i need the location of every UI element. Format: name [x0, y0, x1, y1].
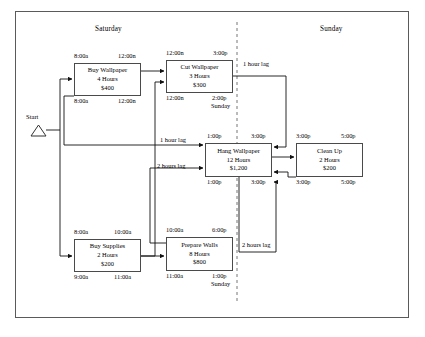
task-name: Prepare Walls — [181, 241, 218, 250]
task-name: Clean Up — [317, 147, 342, 156]
task-late-finish-day-cut-wallpaper: Sunday — [211, 103, 230, 110]
task-cost: $200 — [323, 164, 336, 173]
saturday-label: Saturday — [95, 26, 122, 34]
task-early-start-cut-wallpaper: 12:00n — [166, 50, 184, 57]
task-name: Cut Wallpaper — [181, 63, 219, 72]
task-early-start-prepare-walls: 10:00a — [166, 227, 183, 234]
task-late-finish-cut-wallpaper: 2:00p — [212, 95, 227, 102]
task-box-prepare-walls[interactable]: Prepare Walls 8 Hours $800 — [166, 237, 233, 271]
task-early-start-buy-wallpaper: 8:00a — [74, 53, 88, 60]
task-early-finish-cut-wallpaper: 3:00p — [213, 50, 228, 57]
task-late-start-buy-wallpaper: 8:00a — [74, 98, 88, 105]
task-duration: 2 Hours — [319, 156, 339, 165]
task-box-buy-wallpaper[interactable]: Buy Wallpaper 4 Hours $400 — [74, 63, 141, 96]
task-late-finish-buy-supplies: 11:00a — [114, 274, 131, 281]
lag-label-prepare-to-hang: 2 hours lag — [157, 163, 185, 170]
task-early-start-hang-wallpaper: 1:00p — [207, 133, 222, 140]
task-late-start-clean-up: 3:00p — [296, 179, 311, 186]
task-late-finish-day-prepare-walls: Sunday — [211, 281, 230, 288]
task-box-cut-wallpaper[interactable]: Cut Wallpaper 3 Hours $300 — [166, 60, 233, 93]
task-box-hang-wallpaper[interactable]: Hang Wallpaper 12 Hours $1,200 — [205, 143, 272, 177]
task-late-finish-clean-up: 5:00p — [341, 179, 356, 186]
task-late-start-hang-wallpaper: 1:00p — [207, 179, 222, 186]
task-late-finish-hang-wallpaper: 3:00p — [251, 179, 266, 186]
task-cost: $400 — [101, 84, 114, 93]
start-triangle-icon — [31, 125, 46, 136]
network-diagram: Saturday Sunday Start Buy Wallpaper 4 Ho… — [0, 0, 425, 337]
task-late-start-buy-supplies: 9:00a — [74, 274, 88, 281]
task-duration: 4 Hours — [97, 75, 117, 84]
task-early-start-buy-supplies: 8:00a — [74, 229, 88, 236]
task-early-finish-prepare-walls: 6:00p — [212, 227, 227, 234]
task-early-start-clean-up: 3:00p — [296, 133, 311, 140]
task-duration: 2 Hours — [97, 251, 117, 260]
task-duration: 12 Hours — [227, 156, 251, 165]
task-late-finish-buy-wallpaper: 12:00n — [118, 98, 136, 105]
task-box-buy-supplies[interactable]: Buy Supplies 2 Hours $200 — [74, 239, 141, 272]
task-late-start-cut-wallpaper: 12:00n — [166, 95, 184, 102]
task-cost: $800 — [193, 258, 206, 267]
lag-label-cut-to-hang-top: 1 hour lag — [243, 61, 269, 68]
task-name: Hang Wallpaper — [217, 147, 260, 156]
task-cost: $300 — [193, 81, 206, 90]
conn-clean-up-feedback-to-hang-wallpaper — [274, 172, 296, 177]
task-cost: $1,200 — [230, 164, 248, 173]
lag-label-hang-to-prepare: 2 hours lag — [242, 242, 270, 249]
task-late-start-prepare-walls: 11:00a — [166, 273, 183, 280]
start-label: Start — [26, 114, 38, 121]
task-early-finish-buy-supplies: 10:00a — [114, 229, 131, 236]
task-name: Buy Supplies — [90, 242, 125, 251]
task-early-finish-hang-wallpaper: 3:00p — [251, 133, 266, 140]
task-late-finish-prepare-walls: 1:00p — [212, 273, 227, 280]
task-early-finish-clean-up: 5:00p — [341, 133, 356, 140]
task-early-finish-buy-wallpaper: 12:00n — [118, 53, 136, 60]
task-duration: 8 Hours — [189, 250, 209, 259]
task-duration: 3 Hours — [189, 72, 209, 81]
task-cost: $200 — [101, 260, 114, 269]
lag-label-cut-to-hang-left: 1 hour lag — [160, 137, 186, 144]
sunday-label: Sunday — [320, 26, 342, 34]
task-box-clean-up[interactable]: Clean Up 2 Hours $200 — [296, 143, 363, 177]
task-name: Buy Wallpaper — [88, 66, 127, 75]
